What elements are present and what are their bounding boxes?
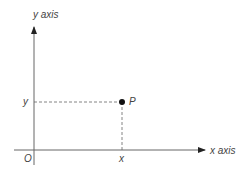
- y-coordinate-label: y: [22, 96, 29, 107]
- x-coordinate-label: x: [118, 153, 125, 164]
- point-label: P: [129, 96, 136, 107]
- cartesian-diagram: y axis x axis O P x y: [0, 0, 246, 173]
- y-axis-label: y axis: [32, 9, 59, 20]
- point-p: [119, 99, 125, 105]
- x-axis-label: x axis: [209, 145, 236, 156]
- origin-label: O: [24, 153, 32, 164]
- diagram-canvas: y axis x axis O P x y: [0, 0, 246, 173]
